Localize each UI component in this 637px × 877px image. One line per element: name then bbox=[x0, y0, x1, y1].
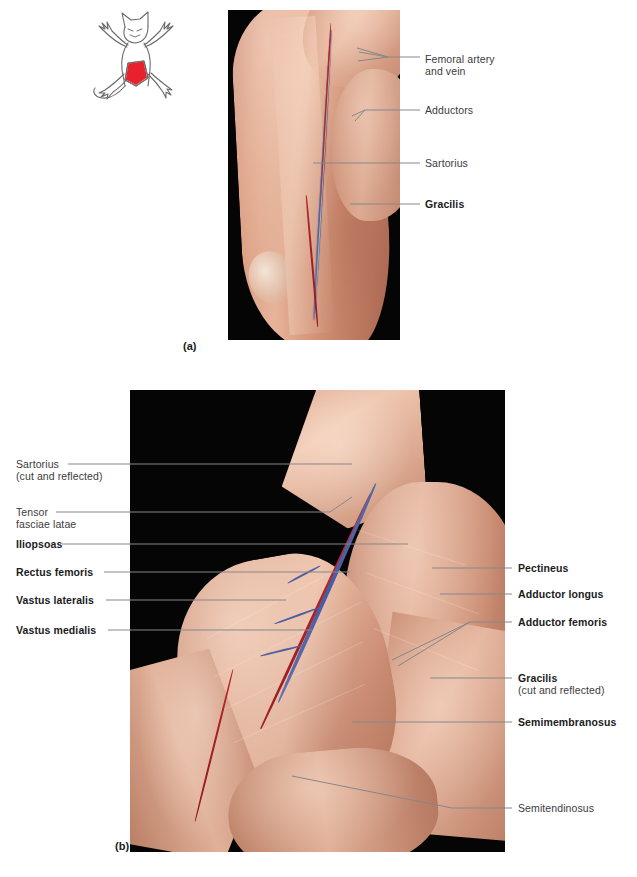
panel-a-label-gracilis: Gracilis bbox=[425, 198, 464, 210]
panel-b-label-semimembranosus: Semimembranosus bbox=[518, 716, 616, 728]
panel-b-letter: (b) bbox=[115, 840, 129, 852]
panel-b-label-sartorius: Sartorius (cut and reflected) bbox=[16, 458, 103, 483]
label-line-2: (cut and reflected) bbox=[16, 470, 103, 482]
panel-b-label-adductor-femoris: Adductor femoris bbox=[518, 616, 607, 628]
figure-page: Femoral artery and vein Adductors Sartor… bbox=[0, 0, 637, 877]
panel-b-label-vastus-lateralis: Vastus lateralis bbox=[16, 594, 94, 606]
cat-highlight-region bbox=[126, 62, 147, 86]
label-line-1: Tensor bbox=[16, 506, 48, 518]
panel-a-label-femoral-artery-and-vein: Femoral artery and vein bbox=[425, 53, 495, 78]
panel-b-label-gracilis: Gracilis (cut and reflected) bbox=[518, 672, 605, 697]
panel-b-label-iliopsoas: Iliopsoas bbox=[16, 538, 62, 550]
label-line-1: Gracilis bbox=[518, 672, 557, 684]
panel-a-haunch bbox=[331, 69, 400, 221]
panel-b-label-vastus-medialis: Vastus medialis bbox=[16, 624, 96, 636]
label-line-1: Femoral artery bbox=[425, 53, 495, 65]
label-line-2: and vein bbox=[425, 65, 495, 77]
panel-a-label-sartorius: Sartorius bbox=[425, 157, 468, 169]
panel-b-label-tensor-fasciae-latae: Tensor fasciae latae bbox=[16, 506, 76, 531]
label-line-2: (cut and reflected) bbox=[518, 684, 605, 696]
panel-b-label-rectus-femoris: Rectus femoris bbox=[16, 566, 93, 578]
cat-orientation-diagram bbox=[78, 4, 190, 108]
panel-a-letter: (a) bbox=[183, 340, 196, 352]
label-line-2: fasciae latae bbox=[16, 518, 76, 530]
label-line-1: Sartorius bbox=[16, 458, 59, 470]
panel-b-photograph bbox=[130, 390, 505, 852]
panel-b-label-pectineus: Pectineus bbox=[518, 562, 569, 574]
panel-a-label-adductors: Adductors bbox=[425, 104, 473, 116]
panel-b-label-semitendinosus: Semitendinosus bbox=[518, 802, 594, 814]
panel-a-photograph bbox=[228, 10, 400, 340]
panel-b-label-adductor-longus: Adductor longus bbox=[518, 588, 604, 600]
